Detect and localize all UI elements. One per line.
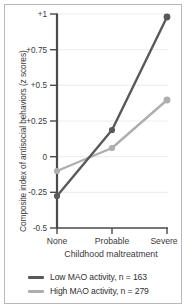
- data-point-high-none: [54, 168, 60, 174]
- series-low-mao: [54, 14, 171, 199]
- series-low-mao-line: [57, 17, 167, 196]
- data-point-high-severe: [164, 97, 171, 104]
- y-tick-label-075: +0.75: [26, 46, 47, 55]
- gridlines: [57, 14, 168, 192]
- x-tick-label-none: None: [47, 236, 68, 246]
- y-tick-label-0: 0: [42, 153, 47, 162]
- series-high-mao: [54, 97, 171, 174]
- legend-swatch-high-mao: [28, 290, 44, 293]
- plot-area: +1 +0.75 +0.5 +0.25 0 -0.25 -0.5 None Pr…: [0, 0, 186, 308]
- legend-label-high-mao: High MAO activity, n = 279: [50, 286, 149, 296]
- y-tick-label-025: +0.25: [26, 117, 47, 126]
- y-tick-label-05: +0.5: [31, 81, 48, 90]
- x-axis-title: Childhood maltreatment: [64, 249, 158, 259]
- data-point-high-probable: [109, 145, 115, 151]
- series-high-mao-line: [57, 100, 167, 171]
- legend-item-high-mao: High MAO activity, n = 279: [28, 284, 178, 298]
- legend-item-low-mao: Low MAO activity, n = 163: [28, 270, 178, 284]
- x-axis-ticks: [57, 228, 167, 234]
- chart-figure: Composite index of antisocial behaviors …: [0, 0, 186, 308]
- y-tick-label-m05: -0.5: [33, 224, 48, 233]
- y-tick-label-1: +1: [38, 10, 48, 19]
- data-point-low-probable: [109, 127, 115, 133]
- legend-swatch-low-mao: [28, 276, 44, 279]
- y-tick-label-m025: -0.25: [28, 188, 47, 197]
- data-point-low-none: [54, 193, 60, 199]
- x-tick-label-severe: Severe: [150, 236, 177, 246]
- chart-legend: Low MAO activity, n = 163 High MAO activ…: [28, 270, 178, 298]
- legend-label-low-mao: Low MAO activity, n = 163: [50, 272, 147, 282]
- data-point-low-severe: [164, 14, 171, 21]
- x-tick-label-probable: Probable: [95, 236, 130, 246]
